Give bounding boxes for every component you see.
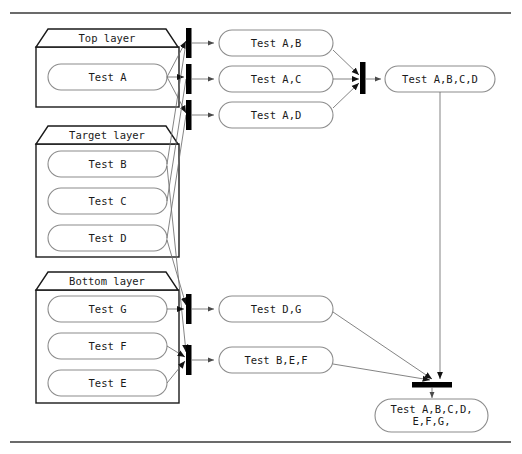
node-test-bef-label: Test B,E,F — [244, 354, 307, 366]
fork-bar-1[interactable] — [186, 28, 192, 58]
fork-bar-4[interactable] — [186, 294, 192, 324]
fork-bar-3[interactable] — [186, 100, 192, 130]
edge-test-dg-to-join-lower — [333, 312, 432, 379]
node-test-e-label: Test E — [89, 377, 127, 389]
bottom-layer-title: Bottom layer — [69, 275, 145, 287]
node-test-f-label: Test F — [89, 340, 127, 352]
edge-test-bef-to-join-lower — [333, 364, 430, 380]
node-test-c-label: Test C — [89, 195, 127, 207]
node-test-abcdefg-label-line-1: Test A,B,C,D, — [390, 403, 472, 415]
diagram-canvas: Top layer Test A Target layer Test B Tes… — [0, 0, 522, 454]
join-bar-upper[interactable] — [360, 62, 366, 94]
combination-nodes: Test A,B Test A,C Test A,D Test D,G Test… — [219, 30, 333, 373]
target-layer-title: Target layer — [69, 129, 145, 141]
join-bar-lower[interactable] — [412, 382, 452, 388]
edges-combos-to-upper-join — [333, 50, 359, 108]
node-test-ab-label: Test A,B — [251, 37, 302, 49]
node-test-a-label: Test A — [89, 71, 128, 83]
node-test-ad-label: Test A,D — [251, 109, 302, 121]
edges-forks-to-combos — [192, 43, 215, 360]
node-test-d-label: Test D — [89, 232, 127, 244]
fork-bar-5[interactable] — [186, 345, 192, 375]
edges-into-lower-join — [333, 92, 440, 380]
layer-top-layer: Top layer Test A — [36, 29, 179, 107]
layer-bottom-layer: Bottom layer Test G Test F Test E — [36, 272, 179, 403]
node-test-b-label: Test B — [89, 158, 127, 170]
node-test-dg-label: Test D,G — [251, 303, 302, 315]
test-layer-diagram: Top layer Test A Target layer Test B Tes… — [0, 0, 522, 454]
edge-test-ad-to-join-upper — [333, 83, 359, 108]
node-test-abcdefg-label-line-2: E,F,G, — [413, 415, 451, 427]
fork-bar-2[interactable] — [186, 64, 192, 94]
edge-test-ab-to-join-upper — [333, 50, 359, 75]
top-layer-title: Top layer — [79, 32, 136, 44]
node-test-abcd-label: Test A,B,C,D — [402, 73, 478, 85]
layer-target-layer: Target layer Test B Test C Test D — [36, 126, 179, 257]
node-test-ac-label: Test A,C — [251, 73, 302, 85]
node-test-g-label: Test G — [89, 303, 127, 315]
